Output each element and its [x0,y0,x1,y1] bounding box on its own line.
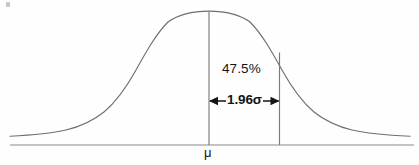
normal-distribution-figure: 47.5% 1.96σ μ [0,0,419,165]
distribution-chart-canvas [0,0,419,165]
mean-axis-label: μ [204,146,212,159]
area-percent-label: 47.5% [222,62,261,76]
arrow-head-right-icon [271,97,280,105]
sigma-distance-label: 1.96σ [226,93,263,107]
normal-curve-path [10,11,410,136]
arrow-head-left-icon [209,97,218,105]
